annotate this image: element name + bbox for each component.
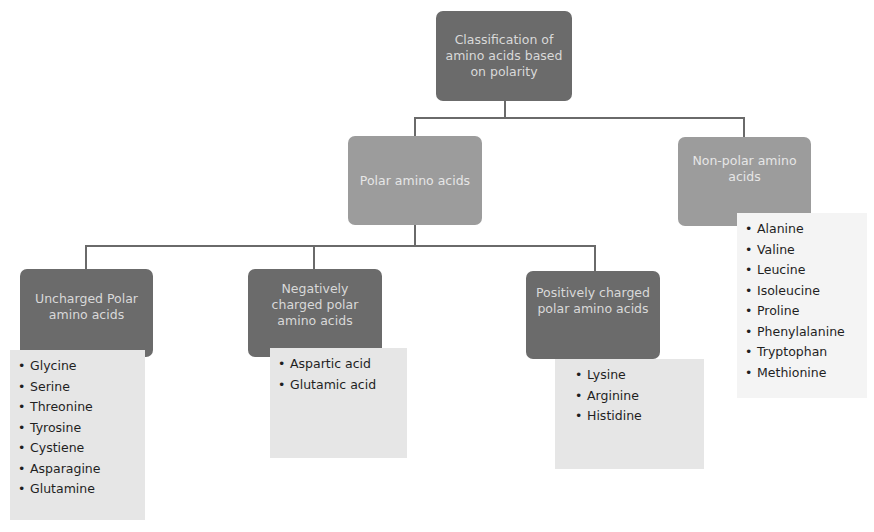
list-item: Tryptophan <box>745 342 859 363</box>
connector-to-negative <box>313 245 315 269</box>
list-item: Threonine <box>18 397 137 418</box>
positive-node: Positively charged polar amino acids <box>526 271 660 359</box>
negative-label: Negatively charged polar amino acids <box>256 281 374 329</box>
list-item: Alanine <box>745 219 859 240</box>
list-item: Proline <box>745 301 859 322</box>
connector-level2-horizontal <box>85 245 595 247</box>
list-item: Phenylalanine <box>745 322 859 343</box>
list-item: Cystiene <box>18 438 137 459</box>
connector-to-polar <box>414 117 416 137</box>
list-item: Isoleucine <box>745 281 859 302</box>
positive-list: Lysine Arginine Histidine <box>555 359 704 469</box>
polar-node: Polar amino acids <box>348 136 482 225</box>
list-item: Glycine <box>18 356 137 377</box>
connector-to-positive <box>594 245 596 271</box>
list-item: Arginine <box>575 386 696 407</box>
list-item: Lysine <box>575 365 696 386</box>
uncharged-label: Uncharged Polar amino acids <box>28 291 145 323</box>
list-item: Asparagine <box>18 459 137 480</box>
nonpolar-list: Alanine Valine Leucine Isoleucine Prolin… <box>737 213 867 398</box>
positive-label: Positively charged polar amino acids <box>534 285 652 317</box>
connector-root-down <box>504 100 506 118</box>
connector-to-uncharged <box>85 245 87 269</box>
list-item: Glutamic acid <box>278 375 399 396</box>
list-item: Histidine <box>575 406 696 427</box>
nonpolar-label: Non-polar amino acids <box>686 153 803 185</box>
list-item: Leucine <box>745 260 859 281</box>
negative-list: Aspartic acid Glutamic acid <box>270 348 407 458</box>
list-item: Serine <box>18 377 137 398</box>
connector-polar-down <box>414 225 416 246</box>
list-item: Aspartic acid <box>278 354 399 375</box>
list-item: Valine <box>745 240 859 261</box>
connector-level1-horizontal <box>414 117 744 119</box>
root-label: Classification of amino acids based on p… <box>444 32 564 80</box>
list-item: Tyrosine <box>18 418 137 439</box>
list-item: Glutamine <box>18 479 137 500</box>
negative-node: Negatively charged polar amino acids <box>248 269 382 357</box>
uncharged-list: Glycine Serine Threonine Tyrosine Cystie… <box>10 350 145 520</box>
list-item: Methionine <box>745 363 859 384</box>
root-node: Classification of amino acids based on p… <box>436 11 572 101</box>
uncharged-node: Uncharged Polar amino acids <box>20 269 153 357</box>
polar-label: Polar amino acids <box>360 173 470 189</box>
connector-to-nonpolar <box>743 117 745 138</box>
